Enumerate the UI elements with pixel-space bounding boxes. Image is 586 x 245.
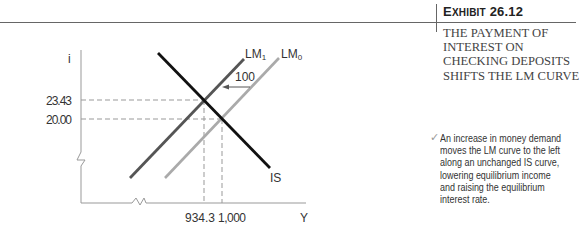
x-tick-934-3: 934.3 [185, 211, 215, 225]
check-mark-icon: ✓ [430, 131, 439, 144]
y-axis-label: i [68, 52, 71, 66]
x-axis-label: Y [300, 211, 308, 225]
guide-lines [81, 100, 222, 203]
exhibit-title: THE PAYMENT OF INTEREST ON CHECKING DEPO… [443, 26, 583, 83]
lm0-label: LM0 [281, 47, 303, 62]
shift-label: 100 [235, 70, 255, 84]
is-label: IS [270, 171, 281, 185]
exhibit-note: An increase in money demand moves the LM… [440, 133, 568, 206]
exhibit-divider [436, 4, 437, 32]
exhibit-number: EXHIBIT 26.12 [443, 4, 523, 19]
x-tick-1000: 1,000 [218, 211, 246, 225]
lm1-label: LM1 [245, 47, 267, 62]
y-tick-23-43: 23.43 [46, 94, 72, 108]
islm-chart: i Y 23.43 20.00 934.3 1,000 LM1 LM0 IS 1… [0, 0, 430, 245]
shift-arrow [222, 85, 250, 90]
y-tick-20-00: 20.00 [46, 113, 72, 127]
